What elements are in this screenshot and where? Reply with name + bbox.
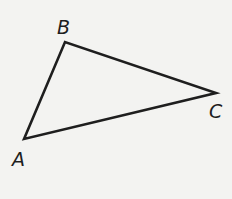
triangle-diagram: B C A <box>0 0 232 199</box>
vertex-label-b: B <box>57 16 70 38</box>
vertex-label-c: C <box>209 100 223 122</box>
triangle-figure: B C A <box>0 0 232 199</box>
vertex-label-a: A <box>10 148 25 170</box>
triangle-abc <box>24 42 216 139</box>
